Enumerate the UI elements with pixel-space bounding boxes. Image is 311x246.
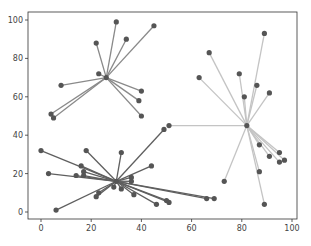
data-point — [151, 23, 156, 28]
data-point — [81, 173, 86, 178]
data-point — [94, 40, 99, 45]
data-point — [204, 196, 209, 201]
data-point — [79, 163, 84, 168]
data-point — [212, 196, 217, 201]
data-point — [139, 113, 144, 118]
x-tick-label: 40 — [136, 224, 146, 233]
y-tick-label: 0 — [18, 208, 23, 217]
data-point — [96, 71, 101, 76]
data-point — [114, 19, 119, 24]
data-point — [84, 148, 89, 153]
data-point — [222, 179, 227, 184]
y-axis-ticks: 020406080100 — [8, 16, 28, 217]
data-point — [166, 123, 171, 128]
data-point — [74, 173, 79, 178]
y-tick-label: 60 — [13, 93, 23, 102]
data-point — [277, 150, 282, 155]
data-point — [282, 158, 287, 163]
x-tick-label: 20 — [86, 224, 96, 233]
plot-background — [28, 12, 297, 219]
data-point — [149, 163, 154, 168]
x-axis-ticks: 020406080100 — [38, 219, 299, 233]
x-tick-label: 80 — [237, 224, 247, 233]
data-point — [139, 88, 144, 93]
data-point — [257, 142, 262, 147]
data-point — [207, 50, 212, 55]
data-point — [254, 83, 259, 88]
x-tick-label: 60 — [187, 224, 197, 233]
data-point — [119, 186, 124, 191]
data-point — [114, 179, 119, 184]
data-point — [53, 207, 58, 212]
data-point — [277, 159, 282, 164]
data-point — [119, 150, 124, 155]
data-point — [136, 98, 141, 103]
data-point — [124, 37, 129, 42]
data-point — [242, 94, 247, 99]
data-point — [257, 169, 262, 174]
data-point — [131, 192, 136, 197]
data-point — [262, 202, 267, 207]
data-point — [96, 190, 101, 195]
y-tick-label: 80 — [13, 54, 23, 63]
x-tick-label: 100 — [284, 224, 299, 233]
data-point — [237, 71, 242, 76]
data-point — [164, 198, 169, 203]
data-point — [161, 127, 166, 132]
scatter-chart: 020406080100 020406080100 — [0, 0, 311, 246]
x-tick-label: 0 — [38, 224, 43, 233]
data-point — [46, 171, 51, 176]
data-point — [267, 154, 272, 159]
data-point — [51, 115, 56, 120]
data-point — [129, 179, 134, 184]
data-point — [267, 90, 272, 95]
data-point — [262, 31, 267, 36]
y-tick-label: 20 — [13, 170, 23, 179]
data-point — [244, 123, 249, 128]
data-point — [111, 184, 116, 189]
data-point — [154, 202, 159, 207]
data-point — [38, 148, 43, 153]
y-tick-label: 40 — [13, 131, 23, 140]
data-point — [58, 83, 63, 88]
y-tick-label: 100 — [8, 16, 23, 25]
data-point — [104, 75, 109, 80]
data-point — [197, 75, 202, 80]
